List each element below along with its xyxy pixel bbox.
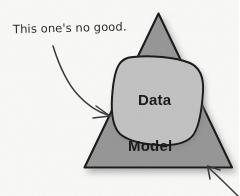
annotation-text: This one's no good.: [13, 21, 113, 36]
annotation-arrow: [53, 46, 110, 118]
figure-canvas: This one's no good. Data Model: [0, 0, 239, 196]
corner-arrow: [208, 166, 240, 196]
data-blob-label: Data: [138, 91, 171, 108]
model-triangle-label: Model: [128, 137, 172, 154]
